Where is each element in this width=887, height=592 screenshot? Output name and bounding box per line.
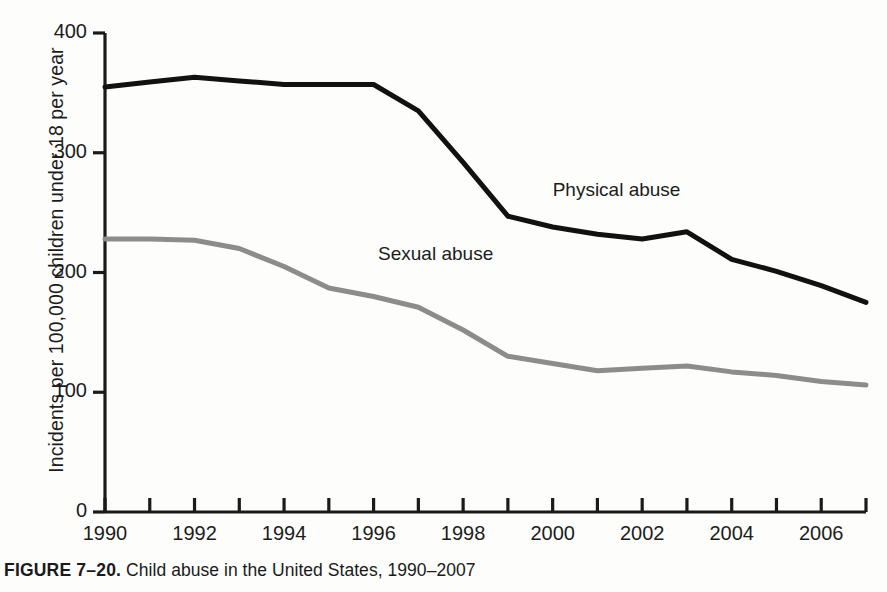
y-axis-tick-label: 200 — [27, 260, 87, 283]
series-line-physical-abuse — [105, 77, 866, 302]
y-axis-tick-label: 0 — [27, 499, 87, 522]
figure-caption: FIGURE 7–20. Child abuse in the United S… — [4, 560, 884, 581]
line-chart-svg — [0, 0, 887, 556]
caption-figure-number: FIGURE 7–20. — [4, 560, 121, 580]
x-axis-tick-label: 1998 — [423, 522, 503, 545]
x-axis-tick-label: 2000 — [513, 522, 593, 545]
y-axis-tick-label: 100 — [27, 379, 87, 402]
chart-series — [105, 77, 866, 385]
y-axis-tick-label: 300 — [27, 140, 87, 163]
series-label-sexual-abuse: Sexual abuse — [378, 243, 493, 265]
caption-text: Child abuse in the United States, 1990–2… — [121, 560, 475, 580]
x-axis-tick-label: 2002 — [602, 522, 682, 545]
x-axis-tick-label: 1994 — [244, 522, 324, 545]
series-label-physical-abuse: Physical abuse — [553, 179, 681, 201]
figure-container: Incidents per 100,000 children under 18 … — [0, 0, 887, 592]
x-axis-tick-label: 1992 — [155, 522, 235, 545]
x-axis-tick-label: 2006 — [781, 522, 861, 545]
y-axis-tick-label: 400 — [27, 20, 87, 43]
x-axis-tick-label: 1990 — [65, 522, 145, 545]
x-axis-tick-label: 1996 — [334, 522, 414, 545]
chart-axes — [93, 33, 866, 512]
x-axis-tick-label: 2004 — [692, 522, 772, 545]
chart-plot-area: Incidents per 100,000 children under 18 … — [0, 0, 887, 556]
